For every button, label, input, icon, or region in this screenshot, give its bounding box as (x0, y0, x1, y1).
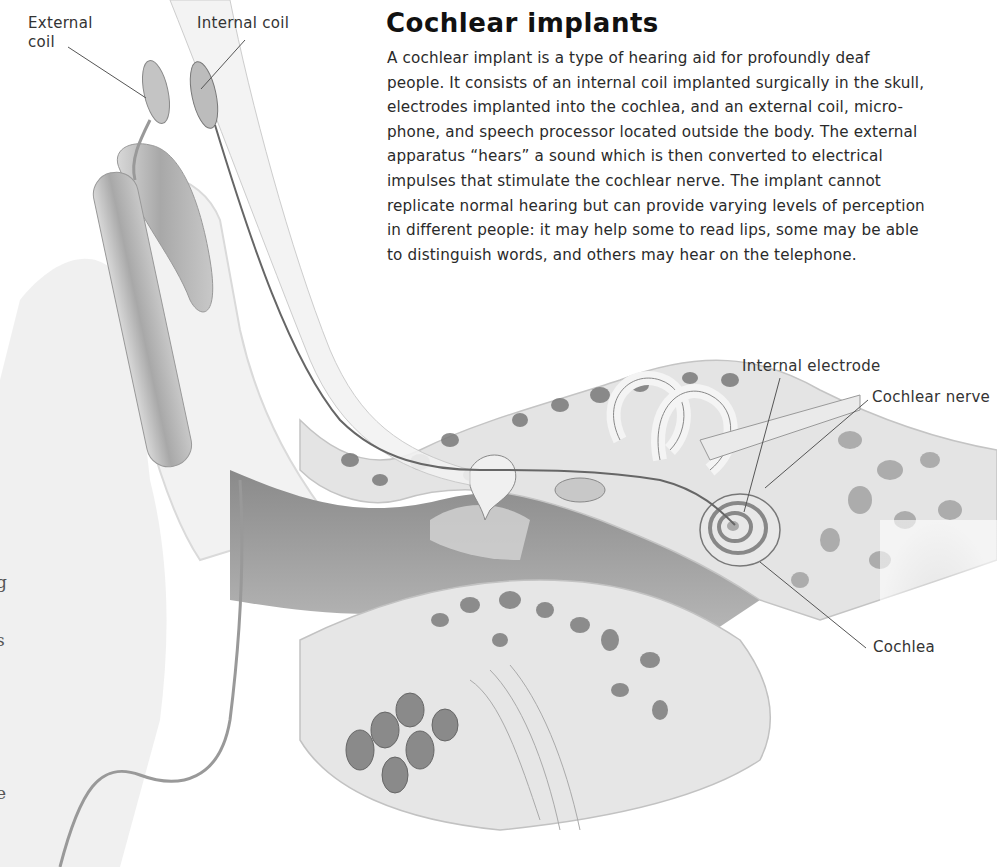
clipped-text-fragment: e (0, 783, 6, 803)
body-line: impulses that stimulate the cochlear ner… (387, 169, 997, 194)
body-line: people. It consists of an internal coil … (387, 71, 997, 96)
clipped-text-fragment: g (0, 572, 7, 592)
article-body: A cochlear implant is a type of hearing … (387, 46, 997, 267)
label-cochlea: Cochlea (873, 638, 935, 657)
label-internal-electrode: Internal electrode (742, 357, 881, 376)
body-line: apparatus “hears” a sound which is then … (387, 144, 997, 169)
body-line: to distinguish words, and others may hea… (387, 243, 997, 268)
body-line: A cochlear implant is a type of hearing … (387, 46, 997, 71)
body-line: electrodes implanted into the cochlea, a… (387, 95, 997, 120)
clipped-text-fragment: s (0, 630, 5, 650)
body-line: in different people: it may help some to… (387, 218, 997, 243)
label-external-coil-line2: coil (28, 33, 93, 52)
label-external-coil: External coil (28, 14, 93, 52)
body-line: phone, and speech processor located outs… (387, 120, 997, 145)
label-cochlear-nerve: Cochlear nerve (872, 388, 990, 407)
leader-external-coil (68, 47, 146, 98)
body-line: replicate normal hearing but can provide… (387, 194, 997, 219)
temporal-bone-lower (300, 580, 770, 830)
label-external-coil-line1: External (28, 14, 93, 33)
page-title: Cochlear implants (386, 8, 659, 38)
label-internal-coil: Internal coil (197, 14, 289, 33)
